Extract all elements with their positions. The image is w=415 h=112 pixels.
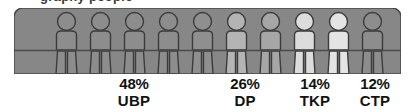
label-ctp: 12% CTP — [345, 76, 405, 109]
pictogram-svg — [14, 8, 401, 74]
label-ubp-code: UBP — [104, 93, 164, 109]
label-dp: 26% DP — [218, 76, 272, 109]
pictogram-panel — [14, 8, 401, 74]
label-dp-code: DP — [218, 93, 272, 109]
panel-contents — [14, 8, 401, 74]
label-ubp-percent: 48% — [104, 76, 164, 92]
label-ctp-percent: 12% — [345, 76, 405, 92]
cropped-caption-fragment: graphy people — [0, 0, 415, 7]
label-dp-percent: 26% — [218, 76, 272, 92]
label-ctp-code: CTP — [345, 93, 405, 109]
label-tkp-percent: 14% — [285, 76, 345, 92]
percentage-labels: 48% UBP 26% DP 14% TKP 12% CTP — [0, 76, 415, 112]
label-ubp: 48% UBP — [104, 76, 164, 109]
label-tkp-code: TKP — [285, 93, 345, 109]
pictogram-infographic: graphy people — [0, 0, 415, 112]
caption-fragment-text: graphy people — [40, 0, 133, 4]
label-tkp: 14% TKP — [285, 76, 345, 109]
